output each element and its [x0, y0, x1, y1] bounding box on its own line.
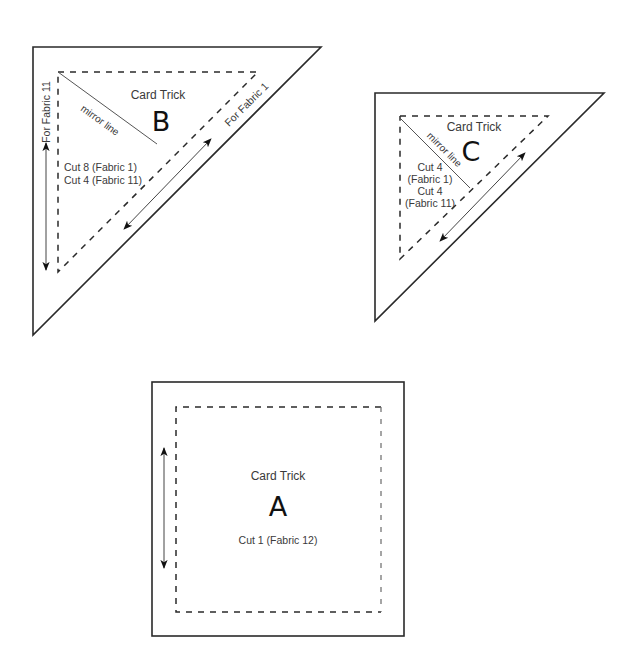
piece-c-cut-line-3: Cut 4	[417, 185, 442, 197]
piece-c-cut-line-2: (Fabric 1)	[408, 173, 453, 185]
piece-a-letter: A	[269, 491, 288, 522]
piece-b-cut-line-1: Cut 8 (Fabric 1)	[64, 161, 137, 173]
piece-a-cut-line-1: Cut 1 (Fabric 12)	[239, 534, 318, 546]
piece-a-template: Card Trick A Cut 1 (Fabric 12)	[152, 382, 404, 636]
piece-c-cut-line-4: (Fabric 11)	[405, 197, 455, 209]
piece-b-cut-line-2: Cut 4 (Fabric 11)	[64, 174, 142, 186]
piece-c-title: Card Trick	[447, 120, 503, 134]
piece-b-template: mirror line Card Trick B Cut 8 (Fabric 1…	[33, 47, 321, 335]
piece-b-letter: B	[152, 106, 171, 137]
piece-b-title: Card Trick	[131, 88, 187, 102]
piece-c-cut-line-1: Cut 4	[417, 161, 442, 173]
piece-b-side-label-left: For Fabric 11	[40, 81, 52, 143]
piece-a-title: Card Trick	[251, 469, 307, 483]
piece-c-template: mirror line Card Trick C Cut 4 (Fabric 1…	[375, 93, 604, 321]
piece-c-letter: C	[462, 136, 481, 167]
pattern-sheet: mirror line Card Trick B Cut 8 (Fabric 1…	[0, 0, 642, 657]
